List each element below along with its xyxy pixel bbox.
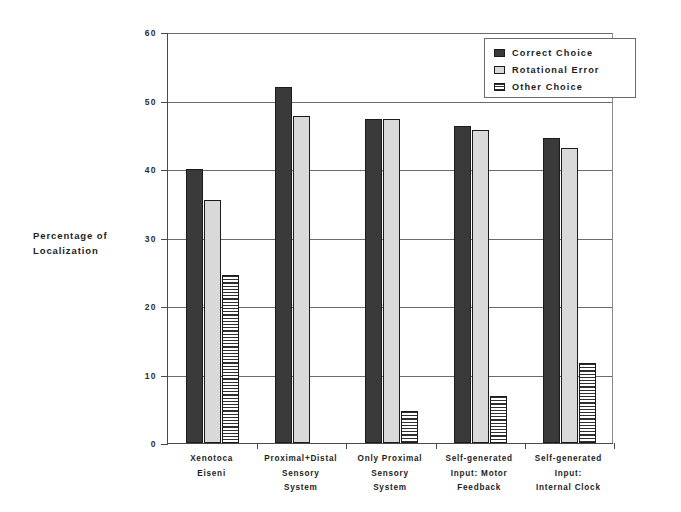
bar <box>543 138 560 443</box>
legend-item: Correct Choice <box>494 45 635 61</box>
legend-label: Correct Choice <box>512 48 593 58</box>
bar <box>293 116 310 443</box>
y-axis-title-line-2: Localization <box>33 243 153 258</box>
bar <box>383 119 400 443</box>
x-axis-separator <box>525 443 526 449</box>
bar <box>579 363 596 443</box>
y-axis-tick-label: 50 <box>145 97 157 107</box>
bar <box>222 275 239 443</box>
bar <box>186 169 203 443</box>
chart-legend: Correct ChoiceRotational ErrorOther Choi… <box>484 38 636 98</box>
x-axis-category-line: Internal Clock <box>514 481 623 496</box>
legend-swatch-icon <box>494 49 505 57</box>
bar <box>561 148 578 443</box>
y-axis-tick-label: 20 <box>145 302 157 312</box>
y-axis-tick <box>161 444 168 445</box>
y-axis-tick <box>161 170 168 171</box>
bar <box>365 119 382 443</box>
gridline <box>168 33 613 34</box>
legend-item: Rotational Error <box>494 62 635 78</box>
legend-swatch-icon <box>494 66 505 74</box>
x-axis-category-line: Input: <box>514 467 623 482</box>
y-axis-tick-label: 60 <box>145 28 157 38</box>
legend-item: Other Choice <box>494 79 635 95</box>
x-axis-separator <box>436 443 437 449</box>
legend-label: Other Choice <box>512 82 583 92</box>
bar <box>204 200 221 443</box>
legend-swatch-icon <box>494 83 505 91</box>
x-axis-separator <box>257 443 258 449</box>
x-axis-category-line: Self-generated <box>514 452 623 467</box>
x-axis-separator <box>614 443 615 449</box>
y-axis-tick-label: 0 <box>151 439 157 449</box>
bar <box>472 130 489 443</box>
legend-label: Rotational Error <box>512 65 600 75</box>
y-axis-tick-label: 10 <box>145 371 157 381</box>
bar <box>275 87 292 443</box>
gridline <box>168 102 613 103</box>
bar <box>401 411 418 443</box>
bar <box>454 126 471 443</box>
bar <box>490 396 507 443</box>
y-axis-tick <box>161 102 168 103</box>
x-axis-category-label: Self-generatedInput:Internal Clock <box>514 452 623 496</box>
x-axis-separator <box>346 443 347 449</box>
y-axis-tick <box>161 376 168 377</box>
y-axis-tick <box>161 33 168 34</box>
y-axis-tick-label: 40 <box>145 165 157 175</box>
y-axis-tick-label: 30 <box>145 234 157 244</box>
bar-chart-figure: Percentage of Localization 0102030405060… <box>0 0 681 512</box>
y-axis-tick <box>161 307 168 308</box>
y-axis-tick <box>161 239 168 240</box>
y-axis-title-line-1: Percentage of <box>33 228 153 243</box>
y-axis-title: Percentage of Localization <box>33 228 153 258</box>
